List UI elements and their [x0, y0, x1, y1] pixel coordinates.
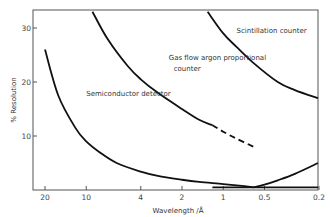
- y-tick-label: 30: [21, 24, 31, 33]
- series-gas-flow-argon-proportional-counter-extrapolated: [212, 125, 253, 147]
- annotation-label: Gas flow argon proportional: [169, 54, 266, 62]
- annotation-label: Scintillation counter: [237, 27, 307, 35]
- x-tick-label: 1: [221, 193, 226, 202]
- x-tick-label: 0.5: [259, 193, 271, 202]
- y-tick-label: 20: [21, 78, 31, 87]
- chart: 102030 20104210.50.2 Scintillation count…: [0, 0, 332, 217]
- x-tick-label: 2: [180, 193, 185, 202]
- x-ticks: 20104210.50.2: [40, 186, 325, 202]
- y-tick-label: 10: [21, 132, 31, 141]
- x-tick-label: 4: [138, 193, 143, 202]
- annotation-label: Semiconductor detector: [86, 90, 171, 98]
- x-tick-label: 10: [81, 193, 91, 202]
- series-semiconductor-detector: [45, 50, 254, 188]
- annotations: Scintillation counterGas flow argon prop…: [86, 27, 307, 97]
- x-axis-label: Wavelength /Å: [153, 206, 204, 215]
- y-axis-label: % Resolution: [10, 77, 18, 122]
- plot-frame: [33, 10, 318, 190]
- series-semiconductor-detector-rising-branch: [254, 163, 318, 187]
- x-tick-label: 20: [40, 193, 50, 202]
- annotation-label: counter: [174, 65, 201, 73]
- x-tick-label: 0.2: [313, 193, 325, 202]
- series-group: [45, 12, 318, 188]
- y-ticks: 102030: [21, 24, 37, 141]
